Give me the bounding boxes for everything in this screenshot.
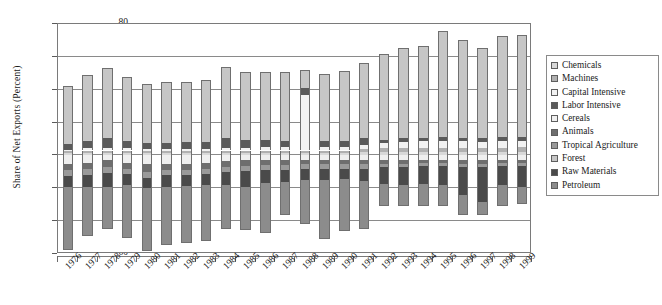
bar-group — [438, 24, 449, 252]
bar-segment — [458, 141, 469, 148]
legend-label: Machines — [562, 74, 598, 83]
bar-segment — [280, 170, 291, 182]
bar-segment — [260, 170, 271, 182]
legend-item[interactable]: Animals — [551, 125, 654, 138]
bar-segment — [517, 147, 528, 152]
legend-item[interactable]: Forest — [551, 152, 654, 165]
bar-segment — [497, 166, 508, 185]
bar-group — [398, 24, 409, 252]
bar-segment — [201, 142, 212, 149]
bar-group — [122, 24, 133, 252]
bar-group — [82, 24, 93, 252]
legend-item[interactable]: Raw Materials — [551, 165, 654, 178]
x-tick-label: 1994 — [418, 251, 439, 272]
bar-segment — [517, 187, 528, 203]
bar-segment — [359, 138, 370, 145]
bar-segment — [63, 155, 74, 163]
x-tick-mark — [57, 256, 58, 262]
legend-item[interactable]: Capital Intensive — [551, 86, 654, 99]
bar-segment — [102, 151, 113, 153]
legend-item[interactable]: Labor Intensive — [551, 99, 654, 112]
bar-group — [260, 24, 271, 252]
bar-segment — [379, 140, 390, 143]
bar-segment — [517, 166, 528, 187]
x-tick-label: 1980 — [142, 251, 163, 272]
legend-label: Capital Intensive — [562, 88, 625, 97]
legend-item[interactable]: Petroleum — [551, 179, 654, 192]
legend-swatch-icon — [551, 182, 558, 189]
legend-swatch-icon — [551, 115, 558, 122]
bar-segment — [438, 166, 449, 185]
bar-series-container — [58, 24, 530, 252]
bar-group — [201, 24, 212, 252]
bar-segment — [477, 202, 488, 215]
bar-segment — [477, 167, 488, 202]
bar-segment — [102, 68, 113, 139]
bar-segment — [398, 185, 409, 206]
bar-segment — [122, 141, 133, 148]
legend-swatch-icon — [551, 142, 558, 149]
bar-segment — [477, 48, 488, 138]
bar-segment — [102, 148, 113, 150]
x-tick-label: 1997 — [478, 251, 499, 272]
legend-swatch-icon — [551, 155, 558, 162]
bar-segment — [122, 151, 133, 153]
bar-segment — [280, 151, 291, 153]
x-tick-label: 1976 — [63, 251, 84, 272]
bar-segment — [260, 183, 271, 233]
legend-item[interactable]: Chemicals — [551, 59, 654, 72]
bar-segment — [418, 46, 429, 138]
legend-item[interactable]: Machines — [551, 72, 654, 85]
bar-segment — [181, 155, 192, 163]
bar-segment — [497, 185, 508, 206]
legend-swatch-icon — [551, 89, 558, 96]
bar-group — [418, 24, 429, 252]
x-tick-label: 1984 — [221, 251, 242, 272]
bar-segment — [142, 149, 153, 151]
bar-segment — [102, 160, 113, 167]
x-tick-label: 1996 — [458, 251, 479, 272]
bar-segment — [221, 151, 232, 153]
bar-segment — [300, 88, 311, 95]
bar-segment — [300, 95, 311, 151]
x-tick-label: 1977 — [83, 251, 104, 272]
bar-segment — [201, 149, 212, 151]
bar-segment — [240, 140, 251, 148]
bar-segment — [280, 72, 291, 141]
bar-segment — [359, 181, 370, 229]
bar-segment — [82, 155, 93, 162]
bar-segment — [102, 138, 113, 148]
bar-segment — [82, 163, 93, 170]
legend-item[interactable]: Cereals — [551, 112, 654, 125]
bar-segment — [82, 148, 93, 150]
bar-group — [280, 24, 291, 252]
legend-item[interactable]: Tropical Agriculture — [551, 139, 654, 152]
bar-group — [458, 24, 469, 252]
legend-label: Labor Intensive — [562, 101, 621, 110]
bar-segment — [201, 163, 212, 170]
bar-segment — [142, 155, 153, 164]
bar-segment — [240, 72, 251, 139]
legend-label: Chemicals — [562, 61, 601, 70]
bar-segment — [122, 148, 133, 150]
bar-group — [477, 24, 488, 252]
bar-segment — [477, 148, 488, 152]
bar-segment — [161, 155, 172, 163]
bar-segment — [438, 141, 449, 148]
bar-segment — [379, 184, 390, 205]
bar-segment — [319, 74, 330, 141]
bar-segment — [181, 149, 192, 151]
bar-segment — [142, 84, 153, 143]
bar-segment — [63, 144, 74, 150]
bar-segment — [201, 155, 212, 162]
legend-label: Tropical Agriculture — [562, 141, 638, 150]
bar-group — [497, 24, 508, 252]
bar-segment — [438, 148, 449, 152]
bar-segment — [122, 163, 133, 170]
bar-segment — [240, 171, 251, 187]
bar-segment — [300, 180, 311, 224]
bar-segment — [260, 140, 271, 147]
bar-segment — [458, 40, 469, 139]
legend-label: Cereals — [562, 114, 590, 123]
bar-segment — [319, 151, 330, 153]
